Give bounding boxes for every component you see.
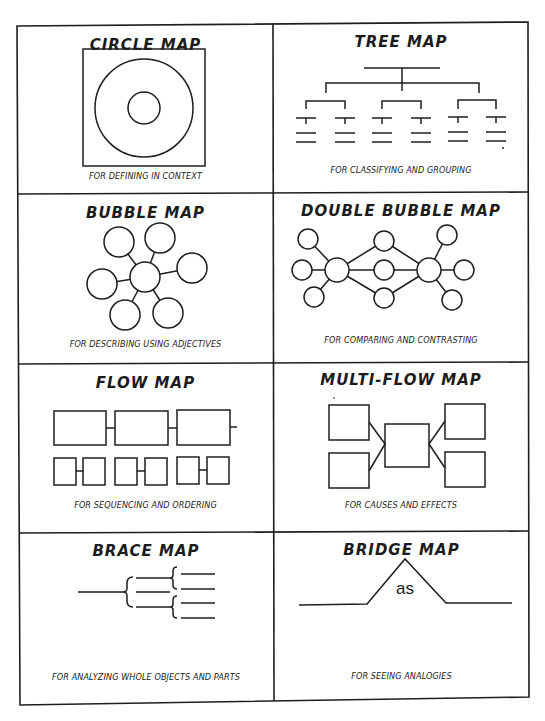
bubble-map-diagram	[18, 194, 273, 363]
double-bubble-map-cell: DOUBLE BUBBLE MAP	[274, 192, 528, 362]
difference-bubble	[304, 287, 324, 307]
brace-icon	[170, 567, 177, 589]
attribute-bubble	[110, 300, 140, 330]
difference-bubble	[292, 260, 312, 280]
stage-box	[177, 410, 230, 445]
flow-map-cell: FLOW MAP FOR SEQUENCING AND ORDERING	[18, 364, 273, 532]
attribute-bubble	[177, 253, 207, 283]
attribute-bubble	[87, 269, 117, 299]
stage-box	[115, 411, 168, 445]
cause-box	[329, 405, 369, 440]
brace-map-cell: BRACE MAP FOR ANALYZING WHOLE OBJECTS AN…	[19, 533, 273, 703]
substage-box	[54, 458, 76, 485]
difference-bubble	[454, 260, 474, 280]
bubble-map-cell: BUBBLE MAP FOR DESCRIBING USING ADJECTIV…	[18, 194, 273, 363]
similarity-bubble	[374, 260, 394, 280]
circle-map-caption: FOR DEFINING IN CONTEXT	[18, 171, 273, 181]
substage-box	[145, 458, 167, 485]
cause-box	[329, 453, 369, 488]
difference-bubble	[437, 225, 457, 245]
topic-bubble-right	[417, 258, 441, 282]
brace-map-caption: FOR ANALYZING WHOLE OBJECTS AND PARTS	[19, 672, 273, 682]
event-box	[385, 424, 429, 467]
substage-box	[207, 457, 229, 484]
tree-map-caption: FOR CLASSIFYING AND GROUPING	[274, 165, 528, 175]
bubble-map-caption: FOR DESCRIBING USING ADJECTIVES	[18, 339, 273, 349]
effect-box	[445, 452, 485, 487]
multi-flow-map-cell: MULTI-FLOW MAP FOR CAUSES AND EFFECTS	[274, 362, 528, 531]
bridge-map-caption: FOR SEEING ANALOGIES	[274, 671, 529, 681]
circle-map-diagram	[78, 48, 213, 170]
flow-map-caption: FOR SEQUENCING AND ORDERING	[18, 500, 273, 510]
bridge-map-cell: BRIDGE MAP as FOR SEEING ANALOGIES	[274, 531, 529, 698]
similarity-bubble	[374, 231, 394, 251]
attribute-bubble	[145, 223, 175, 253]
brace-icon	[123, 577, 133, 607]
tree-map-cell: TREE MAP	[274, 23, 528, 193]
frame-of-reference-box	[83, 49, 205, 166]
effect-box	[445, 404, 485, 439]
topic-bubble-left	[325, 258, 349, 282]
circle-map-cell: CIRCLE MAP FOR DEFINING IN CONTEXT	[18, 26, 273, 193]
substage-box	[177, 457, 199, 484]
topic-circle-inner	[128, 92, 160, 124]
stage-box	[54, 411, 106, 445]
attribute-bubble	[153, 298, 183, 328]
similarity-bubble	[374, 288, 394, 308]
difference-bubble	[442, 290, 462, 310]
double-bubble-map-caption: FOR COMPARING AND CONTRASTING	[274, 335, 528, 345]
substage-box	[83, 458, 105, 485]
difference-bubble	[298, 229, 318, 249]
substage-box	[115, 458, 137, 485]
relating-factor-label: as	[380, 579, 430, 599]
attribute-bubble	[104, 227, 134, 257]
thinking-maps-sheet: CIRCLE MAP FOR DEFINING IN CONTEXT TREE …	[0, 0, 545, 721]
topic-bubble	[130, 262, 160, 292]
context-circle-outer	[95, 59, 193, 157]
brace-icon	[170, 596, 177, 618]
multi-flow-map-caption: FOR CAUSES AND EFFECTS	[274, 500, 528, 510]
